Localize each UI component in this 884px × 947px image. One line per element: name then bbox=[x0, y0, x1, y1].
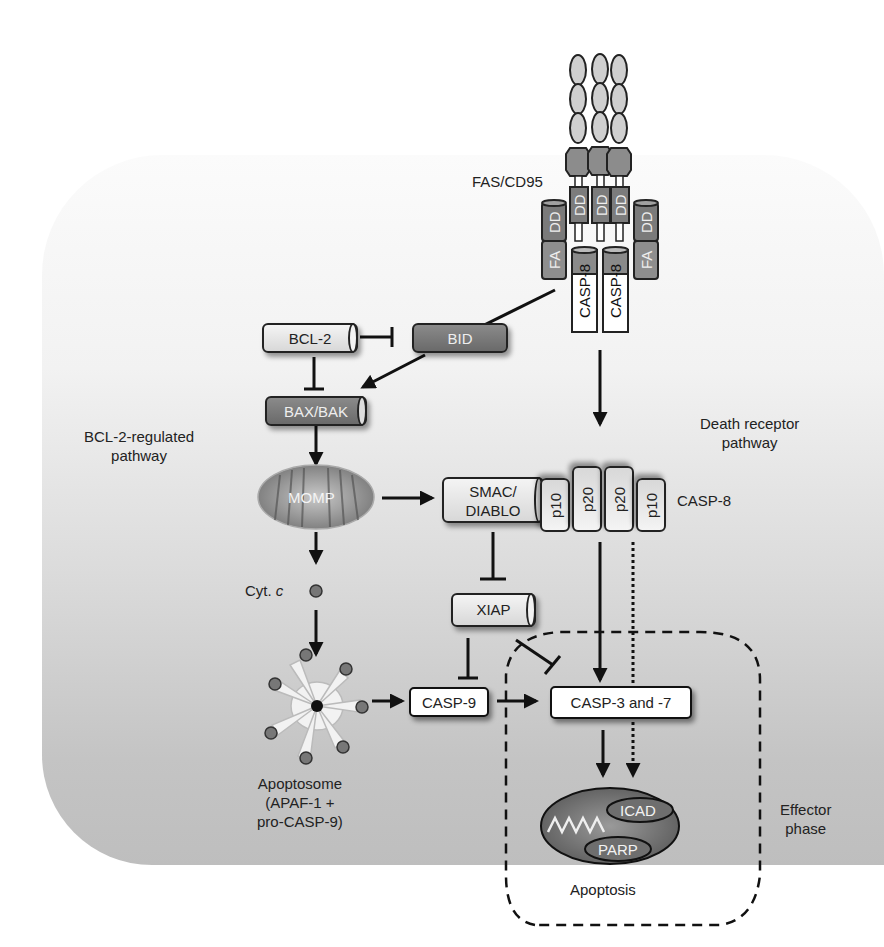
casp9-node: CASP-9 bbox=[409, 687, 489, 717]
receptor-hex-domains bbox=[566, 147, 631, 176]
parp-label: PARP bbox=[598, 840, 638, 859]
pro-casp8-left-label: CASP-8 bbox=[572, 250, 597, 332]
cytochrome-c-icon bbox=[310, 585, 322, 597]
fadd-left-fa: FA bbox=[542, 241, 566, 279]
apoptosome-line2: (APAF-1 + bbox=[257, 793, 343, 812]
bax-bak-node: BAX/BAK bbox=[265, 396, 367, 426]
bax-bak-label: BAX/BAK bbox=[284, 403, 348, 420]
casp8-subunit-p20-left: p20 bbox=[572, 466, 602, 532]
bcl2-pathway-label: BCL-2-regulated pathway bbox=[84, 427, 194, 465]
death-receptor-line2: pathway bbox=[700, 433, 799, 452]
smac-label-line2: DIABLO bbox=[444, 501, 542, 520]
bid-label: BID bbox=[447, 330, 472, 347]
receptor-dd-3: DD bbox=[611, 187, 629, 223]
effector-line1: Effector bbox=[780, 800, 831, 819]
receptor-dd-2: DD bbox=[592, 187, 610, 223]
apoptosome-line3: pro-CASP-9) bbox=[257, 812, 343, 831]
pro-casp8-right-label: CASP-8 bbox=[603, 250, 628, 332]
effector-line2: phase bbox=[780, 819, 831, 838]
fas-cd95-label: FAS/CD95 bbox=[472, 172, 543, 191]
effector-phase-label: Effector phase bbox=[780, 800, 831, 838]
casp3-7-label: CASP-3 and -7 bbox=[571, 694, 672, 711]
apoptosome-label: Apoptosome (APAF-1 + pro-CASP-9) bbox=[257, 774, 343, 831]
bcl2-label: BCL-2 bbox=[289, 330, 332, 347]
casp9-label: CASP-9 bbox=[422, 694, 476, 711]
bcl2-pathway-line2: pathway bbox=[84, 446, 194, 465]
apoptosis-label: Apoptosis bbox=[570, 880, 636, 899]
fadd-right-fa: FA bbox=[634, 241, 658, 279]
momp-label: MOMP bbox=[288, 488, 335, 507]
xiap-label: XIAP bbox=[476, 601, 510, 618]
death-receptor-pathway-label: Death receptor pathway bbox=[700, 414, 799, 452]
casp3-7-node: CASP-3 and -7 bbox=[550, 686, 692, 719]
smac-diablo-node: SMAC/ DIABLO bbox=[442, 477, 544, 523]
casp8-subunit-p10-right: p10 bbox=[636, 478, 666, 532]
bid-node: BID bbox=[412, 323, 508, 353]
fadd-left-dd: DD bbox=[542, 203, 566, 241]
bcl2-node: BCL-2 bbox=[262, 323, 358, 353]
casp8-subunit-p20-right: p20 bbox=[604, 466, 634, 532]
cytc-prefix: Cyt. bbox=[245, 582, 272, 599]
apoptosome-line1: Apoptosome bbox=[257, 774, 343, 793]
fadd-right-dd: DD bbox=[634, 203, 658, 241]
receptor-stems-lower bbox=[575, 223, 623, 241]
death-receptor-line1: Death receptor bbox=[700, 414, 799, 433]
apoptosome-icon bbox=[265, 649, 368, 764]
receptor-stems bbox=[575, 175, 623, 187]
casp8-active-complex: p10 p20 p20 p10 bbox=[540, 466, 685, 534]
receptor-dd-1: DD bbox=[570, 187, 588, 223]
casp8-active-label: CASP-8 bbox=[677, 491, 731, 510]
smac-label-line1: SMAC/ bbox=[444, 482, 542, 501]
casp8-subunit-p10-left: p10 bbox=[540, 478, 570, 532]
bcl2-pathway-line1: BCL-2-regulated bbox=[84, 427, 194, 446]
cytochrome-c-label: Cyt. c bbox=[245, 581, 283, 600]
xiap-node: XIAP bbox=[451, 593, 536, 627]
icad-label: ICAD bbox=[620, 801, 656, 820]
cytc-italic: c bbox=[276, 582, 284, 599]
receptor-extracellular-domains bbox=[570, 54, 627, 143]
